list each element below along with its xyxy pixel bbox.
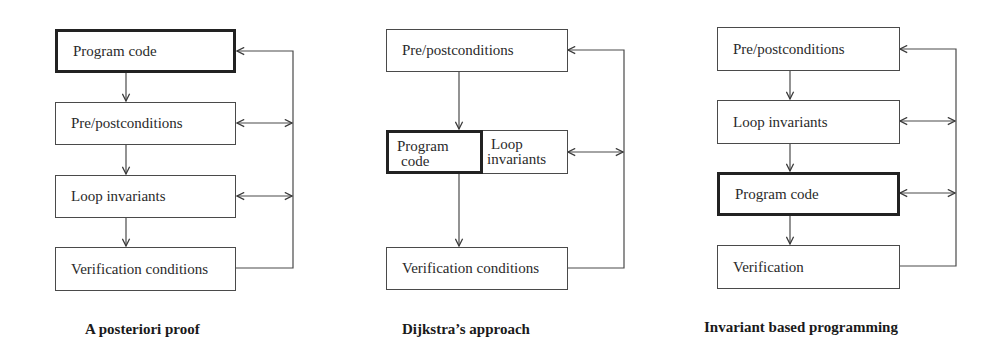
box-pre-postconditions: Pre/postconditions xyxy=(55,102,236,145)
box-label: Loop invariants xyxy=(733,114,828,131)
caption: A posteriori proof xyxy=(85,321,200,338)
caption: Dijkstra’s approach xyxy=(402,321,530,338)
box-label: Loop invariants xyxy=(71,188,166,205)
box-pre-postconditions: Pre/postconditions xyxy=(386,29,568,72)
box-label: Pre/postconditions xyxy=(733,41,845,58)
box-label: Verification conditions xyxy=(71,261,208,278)
box-label: Program code xyxy=(73,43,157,60)
box-verification: Verification xyxy=(717,245,900,289)
loop-invariants-label: Loop invariants xyxy=(487,137,546,167)
box-loop-invariants: Loop invariants xyxy=(55,175,236,218)
box-loop-invariants: Loop invariants xyxy=(717,100,900,144)
box-program-code: Program code xyxy=(717,172,900,216)
box-label: Pre/postconditions xyxy=(402,42,514,59)
box-label: Program code xyxy=(735,186,819,203)
box-label: Verification conditions xyxy=(402,260,539,277)
box-program-code: Program code xyxy=(386,130,483,174)
box-program-code: Program code xyxy=(55,29,236,73)
box-verification-conditions: Verification conditions xyxy=(55,247,236,291)
box-pre-postconditions: Pre/postconditions xyxy=(717,27,900,71)
box-label: Verification xyxy=(733,259,804,276)
box-label: Pre/postconditions xyxy=(71,115,183,132)
caption: Invariant based programming xyxy=(704,319,898,336)
box-verification-conditions: Verification conditions xyxy=(386,247,568,290)
